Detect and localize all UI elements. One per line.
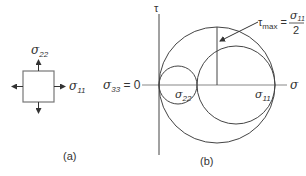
tau-max-denominator: 2 <box>293 24 299 36</box>
sigma22-label: σ22 <box>31 43 49 59</box>
tau-max-formula: τmax= σ11 2 <box>258 9 305 36</box>
tau-max-symbol: τmax= <box>258 16 287 31</box>
tau-max-arrow-icon <box>220 22 258 41</box>
sigma22-circle-label: σ22 <box>175 88 192 103</box>
sigma11-label: σ11 <box>69 79 86 95</box>
tau-max-numerator: σ11 <box>290 9 305 22</box>
caption-b: (b) <box>200 155 213 167</box>
caption-a: (a) <box>63 150 76 162</box>
mohr-circle-panel: τ σ σ33 = 0 σ22 σ11 τmax= σ11 2 (b) <box>103 2 305 167</box>
mohr-circle-figure: σ22 σ11 (a) τ σ σ33 = 0 σ22 σ11 τmax= σ1… <box>0 0 306 176</box>
sigma11-circle-label: σ11 <box>255 88 271 103</box>
sigma-axis-label: σ <box>290 78 299 92</box>
stress-element-panel: σ22 σ11 (a) <box>12 43 86 162</box>
tau-axis-label: τ <box>154 2 159 14</box>
sigma33-label: σ33 = 0 <box>103 78 141 94</box>
stress-element-square <box>23 71 54 102</box>
